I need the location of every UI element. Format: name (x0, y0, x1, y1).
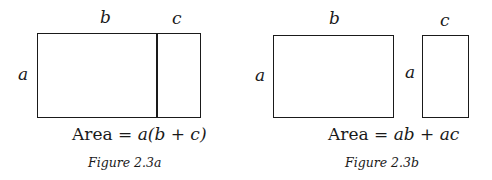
figure-b-label-a-right: a (405, 64, 415, 81)
figure-a-label-a: a (18, 66, 28, 83)
figure-b-caption: Figure 2.3b (345, 155, 419, 170)
figure-b-label-a-left: a (255, 67, 265, 84)
figure-a-caption: Figure 2.3a (88, 155, 161, 170)
figure-b-area-formula: Area = ab + ac (328, 124, 459, 144)
figure-a-area-formula: Area = a(b + c) (72, 124, 207, 144)
figure-a-rect-ab (37, 33, 158, 118)
figure-a-label-c: c (172, 10, 182, 27)
figure-b-rect-ab (273, 35, 394, 118)
figure-a-label-b: b (100, 9, 111, 26)
figure-b-label-c: c (440, 12, 450, 29)
figure-a-rect-ac (156, 33, 201, 118)
figure-b-label-b: b (329, 10, 340, 27)
figure-b-rect-ac (422, 35, 469, 118)
